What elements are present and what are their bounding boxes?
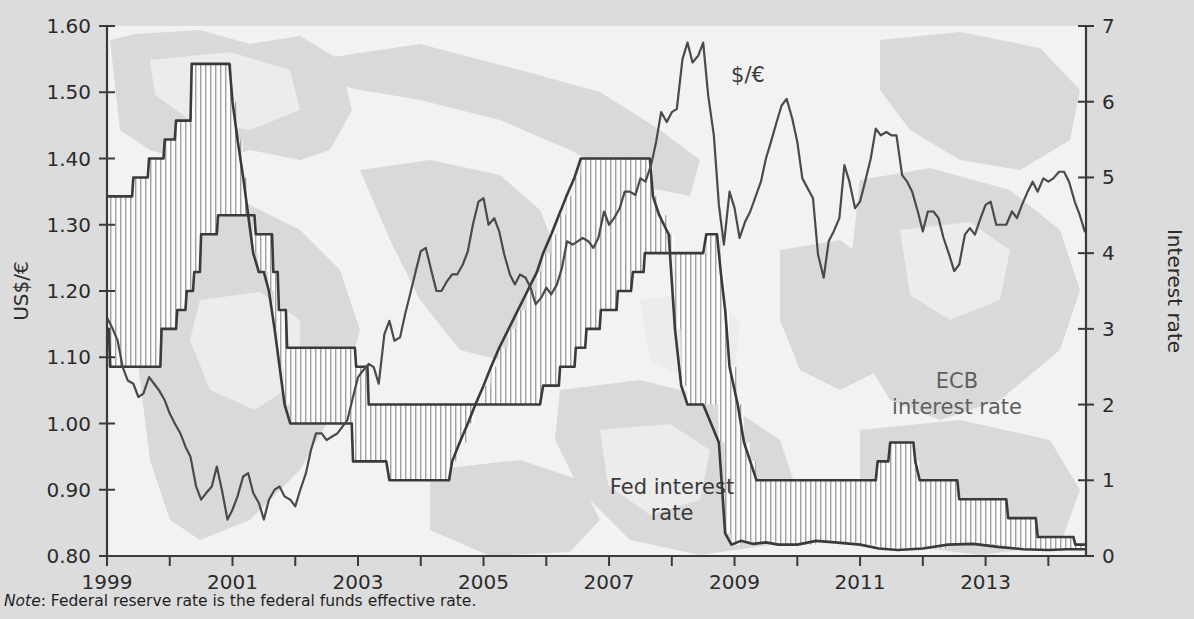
note-prefix: Note (4, 592, 41, 610)
fed-label-line1: Fed interest (610, 475, 734, 499)
right-tick-label-2: 2 (1102, 393, 1115, 417)
right-tick-label-4: 4 (1102, 241, 1115, 265)
x-tick-label-2009: 2009 (709, 570, 760, 594)
x-tick-label-2001: 2001 (207, 570, 258, 594)
right-tick-label-0: 0 (1102, 544, 1115, 568)
x-tick-label-2011: 2011 (835, 570, 886, 594)
x-tick-label-1999: 1999 (82, 570, 133, 594)
interest-rate-exchange-rate-chart: 0.800.901.001.101.201.301.401.501.600123… (0, 0, 1194, 619)
left-tick-label-8: 1.60 (46, 14, 91, 38)
left-tick-label-5: 1.30 (46, 213, 91, 237)
chart-svg: 0.800.901.001.101.201.301.401.501.600123… (0, 0, 1194, 619)
right-tick-label-7: 7 (1102, 14, 1115, 38)
left-tick-label-6: 1.40 (46, 147, 91, 171)
left-tick-label-4: 1.20 (46, 279, 91, 303)
ecb-label-line2: interest rate (892, 395, 1022, 419)
left-tick-label-2: 1.00 (46, 412, 91, 436)
x-tick-label-2007: 2007 (584, 570, 635, 594)
ecb-label-line1: ECB (936, 369, 978, 393)
left-axis-title: US$/€ (9, 261, 33, 321)
left-tick-label-3: 1.10 (46, 345, 91, 369)
note-text: : Federal reserve rate is the federal fu… (41, 592, 477, 610)
x-tick-label-2013: 2013 (960, 570, 1011, 594)
chart-note: Note: Federal reserve rate is the federa… (4, 592, 476, 610)
left-tick-label-7: 1.50 (46, 80, 91, 104)
left-tick-label-0: 0.80 (46, 544, 91, 568)
right-tick-label-3: 3 (1102, 317, 1115, 341)
x-tick-label-2003: 2003 (333, 570, 384, 594)
right-tick-label-6: 6 (1102, 90, 1115, 114)
right-tick-label-5: 5 (1102, 165, 1115, 189)
usd-eur-series-label: $/€ (731, 63, 765, 87)
right-axis-title: Interest rate (1163, 229, 1187, 353)
fed-label-line2: rate (651, 501, 694, 525)
left-tick-label-1: 0.90 (46, 478, 91, 502)
x-tick-label-2005: 2005 (458, 570, 509, 594)
right-tick-label-1: 1 (1102, 468, 1115, 492)
